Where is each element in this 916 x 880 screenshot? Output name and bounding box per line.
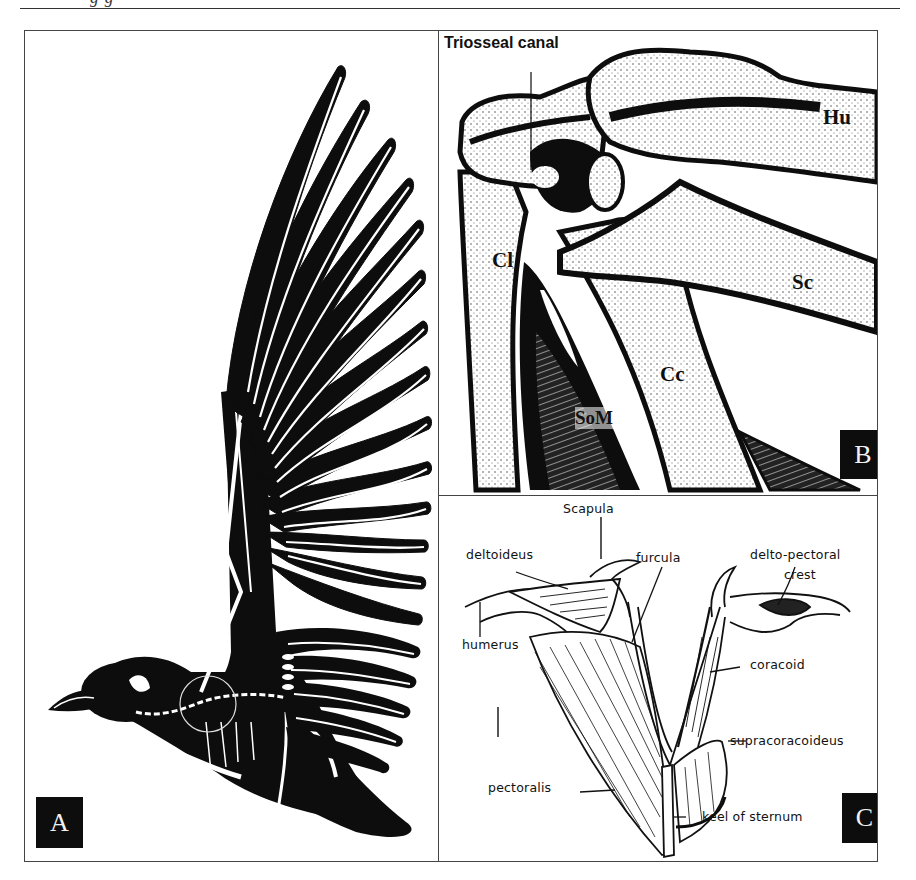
panel-divider-horizontal [438, 495, 878, 496]
panel-a: A [26, 32, 437, 860]
panel-label-b: B [840, 430, 877, 479]
header-rule [20, 8, 900, 9]
label-som: SoM [575, 407, 613, 429]
label-coracoid: coracoid [750, 657, 805, 672]
label-deltoideus: deltoideus [466, 547, 533, 562]
label-keel-of-sternum: keel of sternum [702, 809, 803, 824]
label-furcula: furcula [636, 550, 681, 565]
label-scapula: Scapula [563, 501, 614, 516]
label-cl: Cl [492, 248, 513, 273]
bird-illustration [26, 32, 437, 860]
panel-b: Triosseal canal Hu Cl Sc Cc SoM B [440, 32, 877, 494]
panel-label-a: A [36, 797, 83, 848]
panel-label-c: C [842, 793, 877, 843]
label-delto-pectoral: delto-pectoral [750, 547, 841, 562]
label-supracoracoideus: supracoracoideus [730, 733, 844, 748]
label-triosseal-canal: Triosseal canal [444, 34, 559, 52]
label-humerus: humerus [462, 637, 519, 652]
label-pectoralis: pectoralis [488, 780, 551, 795]
running-header-fragment: g g [90, 0, 114, 8]
label-crest: crest [784, 567, 816, 582]
label-sc: Sc [792, 270, 813, 295]
panel-c: Scapula deltoideus furcula delto-pectora… [440, 497, 877, 860]
label-cc: Cc [660, 362, 685, 387]
panel-divider-vertical [438, 30, 439, 862]
label-hu: Hu [823, 105, 851, 130]
